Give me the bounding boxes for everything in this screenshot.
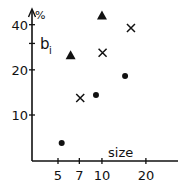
y-tick-label: 20 bbox=[11, 63, 28, 78]
scatter-chart: % b i size 571020102040 bbox=[0, 0, 184, 190]
data-markers bbox=[59, 11, 135, 146]
y-axis: % b i bbox=[29, 9, 52, 161]
cross-marker-icon bbox=[127, 24, 135, 32]
x-axis: size bbox=[32, 145, 178, 161]
x-axis-label: size bbox=[108, 145, 133, 160]
triangle-marker-icon bbox=[66, 50, 76, 59]
cross-marker-icon bbox=[76, 94, 84, 102]
dot-marker-icon bbox=[93, 92, 99, 98]
x-tick-label: 10 bbox=[94, 168, 111, 183]
dot-marker-icon bbox=[59, 140, 65, 146]
chart-canvas: % b i size 571020102040 bbox=[0, 0, 184, 190]
cross-marker-icon bbox=[99, 49, 107, 57]
y-axis-label: % bbox=[35, 9, 45, 22]
triangle-marker-icon bbox=[97, 11, 107, 20]
x-tick-label: 5 bbox=[54, 168, 62, 183]
x-tick-label: 20 bbox=[138, 168, 155, 183]
dot-marker-icon bbox=[122, 73, 128, 79]
y-tick-label: 40 bbox=[11, 18, 28, 33]
annotation-sub: i bbox=[49, 45, 52, 56]
x-tick-label: 7 bbox=[75, 168, 83, 183]
y-tick-label: 10 bbox=[11, 108, 28, 123]
